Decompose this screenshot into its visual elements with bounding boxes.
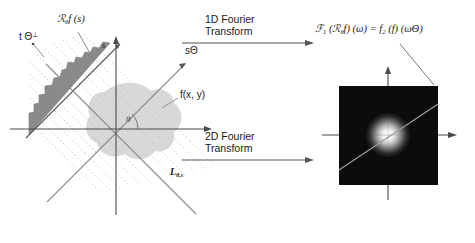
- theta-angle-label: θ: [126, 115, 130, 124]
- y-axis-arrowhead: [113, 36, 119, 44]
- formula-mid: f) (ω) =: [344, 23, 380, 34]
- radon-fourier-figure: ℛθf (s) t Θ⊥ s sΘ f(x, y) Lθ,s θ 1D Four…: [0, 0, 475, 243]
- label-2d-line2: Transform: [205, 142, 255, 154]
- frequency-domain-panel: ℱ1 (ℛθf) (ω) = f2 (f) (ωΘ): [300, 0, 475, 243]
- t-theta-leader: [34, 45, 44, 57]
- formula-leader-line: [400, 44, 434, 85]
- t-theta-perp-sup: ⊥: [32, 31, 38, 38]
- t-theta-text: t Θ: [19, 31, 32, 42]
- label-1d-fourier-transform: 1D Fourier Transform: [205, 13, 255, 37]
- freq-y-axis-arrowhead: [385, 66, 391, 74]
- fourier-slice-formula: ℱ1 (ℛθf) (ω) = f2 (f) (ωΘ): [315, 24, 423, 35]
- radon-symbol-rest: f (s): [68, 13, 85, 24]
- freq-x-axis-arrowhead: [448, 132, 457, 138]
- transform-arrows: 1D Fourier Transform 2D Fourier Transfor…: [180, 0, 320, 243]
- radon-transform-label: ℛθf (s): [57, 14, 85, 25]
- label-1d-line1: 1D Fourier: [205, 13, 255, 25]
- label-2d-line1: 2D Fourier: [205, 130, 255, 142]
- formula-tail: (f) (ωΘ): [386, 23, 423, 34]
- t-theta-perp-label: t Θ⊥: [19, 32, 38, 42]
- s-axis-label: s: [102, 41, 106, 50]
- radon-symbol: ℛ: [57, 13, 65, 24]
- label-2d-fourier-transform: 2D Fourier Transform: [205, 130, 255, 154]
- t-theta-leader-dot: [32, 43, 35, 46]
- frequency-domain-svg: [300, 0, 475, 243]
- formula-F-symbol: ℱ: [315, 23, 323, 34]
- label-1d-line2: Transform: [205, 25, 255, 37]
